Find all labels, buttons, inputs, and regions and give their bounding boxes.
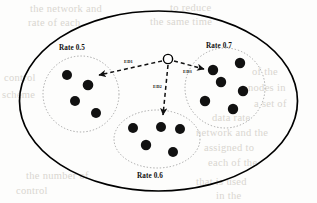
left-cluster-nodes [62,70,101,118]
cluster-node [216,77,226,87]
edge-label-ed2: ED2 [153,84,162,89]
bottom-cluster-label: Rate 0.6 [137,172,163,180]
center-coordinator-node [163,54,172,63]
edge-label-ed1: ED1 [124,59,133,64]
right-cluster-region [185,48,265,128]
cluster-node [62,70,72,80]
edge-to-bottom-cluster [163,65,168,115]
cluster-node [156,122,166,132]
edge-to-right-cluster [174,61,204,69]
cluster-node [238,86,248,96]
network-boundary-ellipse [20,11,298,191]
cluster-node [168,147,178,157]
edge-label-ed3: ED3 [183,69,192,74]
bottom-cluster-nodes [128,122,185,157]
bottom-cluster-region [114,110,200,168]
cluster-node [141,140,151,150]
cluster-node [91,108,101,118]
right-cluster-label: Rate 0.7 [206,42,232,50]
right-cluster-nodes [200,58,248,114]
left-cluster-label: Rate 0.5 [59,44,85,52]
cluster-node [128,123,138,133]
cluster-node [70,96,80,106]
cluster-node [228,104,238,114]
cluster-node [175,124,185,134]
left-cluster-region [43,56,119,132]
cluster-node [83,80,94,91]
cluster-node [200,96,210,106]
figure-container: the network and to reduce rate of each t… [0,0,317,203]
cluster-node [235,58,245,68]
cluster-node [208,65,218,75]
